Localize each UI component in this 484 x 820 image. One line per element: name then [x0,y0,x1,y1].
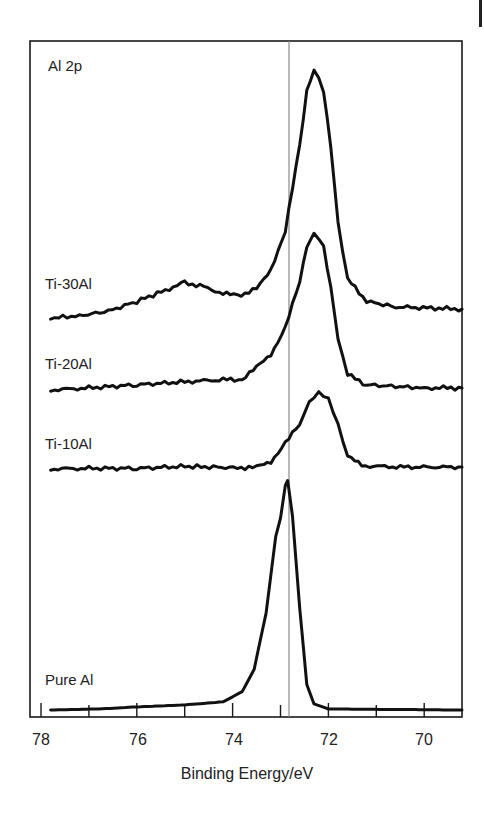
series-label-ti10al: Ti-10Al [45,435,92,452]
tick-label-70: 70 [415,731,433,748]
tick-label-78: 78 [32,731,50,748]
spectrum-ti-10al [51,392,462,471]
tick-label-76: 76 [129,731,147,748]
spectrum-pure-al [51,481,462,711]
tick-label-74: 74 [225,731,243,748]
chart-title: Al 2p [48,57,82,74]
xps-chart: Al 2p Ti-30Al Ti-20Al Ti-10Al Pure Al 78… [0,0,484,820]
spectrum-ti-30al [51,70,462,319]
spectrum-ti-20al [51,233,462,391]
series-label-ti30al: Ti-30Al [45,275,92,292]
tick-label-72: 72 [320,731,338,748]
series-label-ti20al: Ti-20Al [45,355,92,372]
x-axis-label: Binding Energy/eV [181,765,314,782]
spectra [51,70,462,710]
series-label-pure-al: Pure Al [45,671,93,688]
